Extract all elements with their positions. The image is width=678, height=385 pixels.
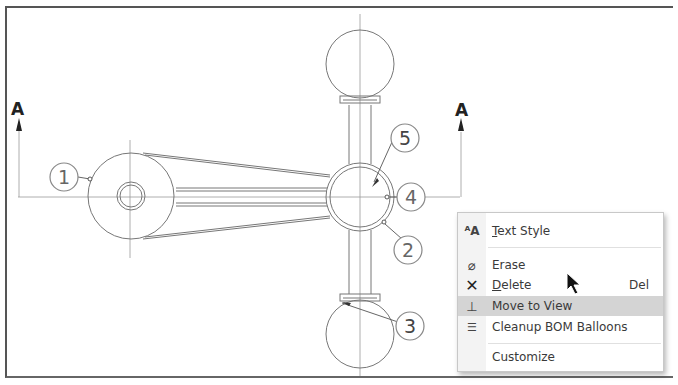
menu-item-erase[interactable]: ⌀ Erase (458, 255, 663, 275)
delete-shortcut: Del (629, 278, 649, 292)
left-hub-outline (88, 153, 174, 239)
menu-item-move-to-view[interactable]: ⊥ Move to View (458, 296, 663, 316)
mouse-cursor-icon (566, 272, 582, 296)
context-menu: ᴬA Text Style ⌀ Erase ✕ Delete Del ⊥ Mov… (457, 212, 664, 372)
erase-icon: ⌀ (463, 256, 481, 274)
balloon-1[interactable]: 1 (50, 166, 78, 188)
balloon-3[interactable]: 3 (396, 315, 424, 337)
delete-icon: ✕ (463, 276, 481, 294)
balloon-5[interactable]: 5 (391, 127, 419, 149)
section-label-right: A (455, 100, 468, 120)
menu-item-customize[interactable]: Customize (458, 347, 663, 367)
menu-separator (488, 343, 661, 344)
cleanup-bom-balloons-icon: ☰ (463, 318, 481, 336)
menu-item-delete[interactable]: ✕ Delete Del (458, 275, 663, 295)
balloon-2[interactable]: 2 (394, 239, 422, 261)
balloon-4[interactable]: 4 (397, 186, 425, 208)
section-label-left: A (11, 99, 24, 119)
menu-item-text-style[interactable]: ᴬA Text Style (458, 221, 663, 241)
menu-item-cleanup-bom-balloons[interactable]: ☰ Cleanup BOM Balloons (458, 317, 663, 337)
move-to-view-icon: ⊥ (463, 297, 481, 315)
menu-separator (488, 247, 661, 248)
text-style-icon: ᴬA (463, 222, 481, 240)
section-arrow-left (16, 118, 22, 131)
